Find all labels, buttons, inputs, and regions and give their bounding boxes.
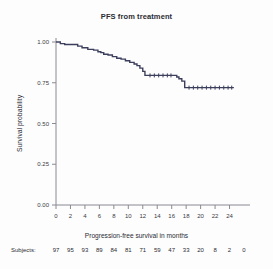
- risk-count-8mo: 84: [107, 247, 121, 253]
- numbers-at-risk-row: Subjects: 9795938984817159473320820: [0, 247, 273, 261]
- risk-count-16mo: 47: [165, 247, 179, 253]
- svg-text:Survival probability: Survival probability: [16, 94, 24, 152]
- tick-marks-group: [52, 42, 230, 209]
- risk-count-0mo: 97: [49, 247, 63, 253]
- tick-labels-group: 0246810121416182022240.000.250.500.751.0…: [37, 39, 233, 219]
- risk-count-14mo: 59: [150, 247, 164, 253]
- svg-text:0.50: 0.50: [37, 121, 49, 127]
- svg-text:20: 20: [197, 213, 204, 219]
- svg-text:8: 8: [112, 213, 116, 219]
- risk-count-22mo: 8: [208, 247, 222, 253]
- svg-text:16: 16: [168, 213, 175, 219]
- svg-text:2: 2: [69, 213, 73, 219]
- risk-table-label: Subjects:: [11, 247, 36, 253]
- svg-text:4: 4: [83, 213, 87, 219]
- survival-curve-svg: 0246810121416182022240.000.250.500.751.0…: [0, 0, 273, 269]
- axis-group: [56, 38, 250, 205]
- risk-count-4mo: 93: [78, 247, 92, 253]
- svg-text:10: 10: [125, 213, 132, 219]
- svg-text:22: 22: [212, 213, 219, 219]
- svg-text:12: 12: [139, 213, 146, 219]
- svg-text:0.25: 0.25: [37, 161, 49, 167]
- svg-text:0.00: 0.00: [37, 202, 49, 208]
- risk-count-18mo: 33: [179, 247, 193, 253]
- svg-text:14: 14: [154, 213, 161, 219]
- y-axis-title: Survival probability: [16, 94, 24, 152]
- svg-text:0.75: 0.75: [37, 80, 49, 86]
- svg-text:24: 24: [226, 213, 233, 219]
- risk-count-24mo: 2: [223, 247, 237, 253]
- risk-count-2mo: 95: [63, 247, 77, 253]
- km-step-curve: [56, 42, 234, 88]
- risk-count-20mo: 20: [194, 247, 208, 253]
- risk-count-26mo: 0: [237, 247, 251, 253]
- km-plot-figure: PFS from treatment 024681012141618202224…: [0, 0, 273, 269]
- risk-count-10mo: 81: [121, 247, 135, 253]
- svg-text:6: 6: [98, 213, 102, 219]
- risk-count-12mo: 71: [136, 247, 150, 253]
- x-axis-title: Progression-free survival in months: [0, 232, 273, 239]
- svg-text:18: 18: [183, 213, 190, 219]
- risk-count-6mo: 89: [92, 247, 106, 253]
- svg-text:1.00: 1.00: [37, 39, 49, 45]
- svg-text:0: 0: [54, 213, 58, 219]
